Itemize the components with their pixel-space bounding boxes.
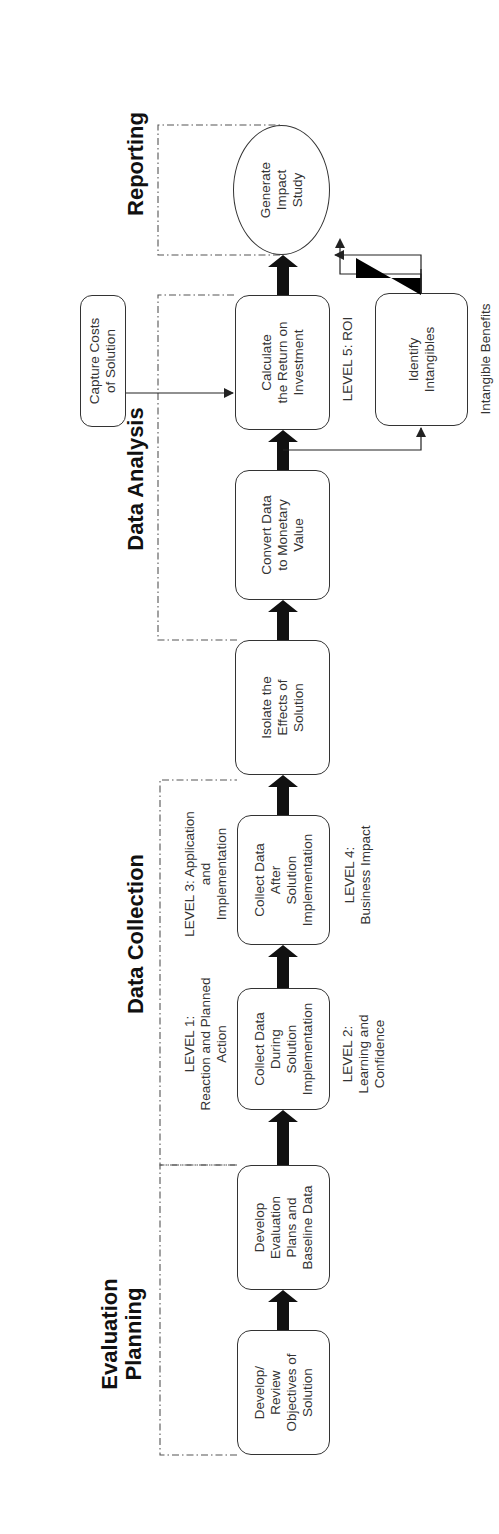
level-5-label: LEVEL 5: ROI bbox=[340, 294, 356, 424]
step-collect-data-during: Collect Data During Solution Implementat… bbox=[237, 988, 330, 1110]
phase-reporting: Reporting bbox=[124, 94, 148, 234]
step-calculate-roi: Calculate the Return on Investment bbox=[235, 295, 330, 430]
step-convert-data: Convert Data to Monetary Value bbox=[235, 470, 330, 600]
phase-data-analysis: Data Analysis bbox=[124, 359, 148, 599]
step-generate-impact-study: Generate Impact Study bbox=[233, 125, 330, 255]
step-develop-evaluation-plans: Develop Evaluation Plans and Baseline Da… bbox=[237, 1165, 330, 1290]
level-1-label: LEVEL 1: Reaction and Planned Action bbox=[182, 964, 230, 1124]
phase-evaluation-planning: Evaluation Planning bbox=[98, 1234, 146, 1434]
intangible-benefits-label: Intangible Benefits bbox=[478, 269, 494, 449]
step-collect-data-after: Collect Data After Solution Implementati… bbox=[237, 815, 330, 945]
level-2-label: LEVEL 2: Learning and Confidence bbox=[340, 984, 388, 1124]
step-capture-costs: Capture Costs of Solution bbox=[80, 295, 126, 427]
step-isolate-effects: Isolate the Effects of Solution bbox=[235, 640, 330, 775]
level-4-label: LEVEL 4: Business Impact bbox=[342, 810, 374, 940]
phase-data-collection: Data Collection bbox=[124, 804, 148, 1064]
level-3-label: LEVEL 3: Application and Implementation bbox=[182, 794, 230, 954]
step-identify-intangibles: Identify Intangibles bbox=[375, 293, 468, 426]
step-develop-objectives: Develop/ Review Objectives of Solution bbox=[237, 1330, 330, 1455]
roi-process-diagram: Evaluation Planning Data Collection Data… bbox=[0, 0, 499, 1534]
